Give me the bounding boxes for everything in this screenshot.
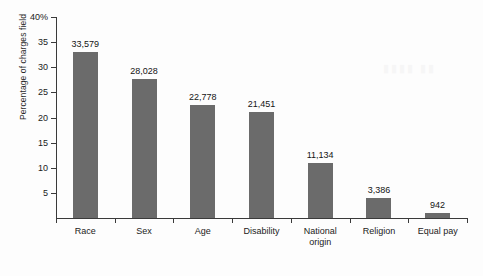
- bar: 33,579: [73, 52, 98, 218]
- x-axis-tick: [115, 218, 116, 223]
- bar: 942: [425, 213, 450, 218]
- plot-area: 510152025303540% 33,57928,02822,77821,45…: [56, 17, 467, 219]
- bar-group: 28,028: [115, 79, 174, 218]
- bar-chart: Percentage of charges field 510152025303…: [0, 0, 483, 276]
- x-axis-tick: [173, 218, 174, 223]
- y-axis-title: Percentage of charges field: [18, 0, 28, 152]
- bar-value-label: 28,028: [130, 66, 158, 76]
- y-axis-tick-label: 5: [43, 188, 48, 198]
- x-axis-tick: [350, 218, 351, 223]
- y-axis-tick-label: 30: [38, 62, 48, 72]
- x-axis-tick: [467, 218, 468, 223]
- bar-value-label: 3,386: [368, 185, 391, 195]
- y-axis-tick-label: 40%: [30, 12, 48, 22]
- bar: 22,778: [190, 105, 215, 218]
- x-axis-tick: [291, 218, 292, 223]
- bar-group: 11,134: [291, 163, 350, 218]
- bar-group: 21,451: [232, 112, 291, 218]
- x-axis-tick: [232, 218, 233, 223]
- x-axis-line: [56, 218, 467, 219]
- bar: 21,451: [249, 112, 274, 218]
- bar: 3,386: [366, 198, 391, 218]
- y-axis-tick: [51, 42, 56, 43]
- x-axis-category-label: Equal pay: [403, 226, 473, 237]
- bar-value-label: 11,134: [307, 150, 334, 160]
- y-axis-tick-label: 35: [38, 37, 48, 47]
- bar-value-label: 33,579: [72, 39, 100, 49]
- y-axis-tick: [51, 17, 56, 18]
- y-axis-tick-label: 15: [38, 138, 48, 148]
- bar-value-label: 942: [430, 200, 445, 210]
- bar: 28,028: [132, 79, 157, 218]
- y-axis-tick-label: 20: [38, 113, 48, 123]
- bar-group: 3,386: [350, 198, 409, 218]
- bar-value-label: 22,778: [189, 92, 217, 102]
- x-axis-tick: [56, 218, 57, 223]
- bar-value-label: 21,451: [248, 99, 276, 109]
- bar-group: 33,579: [56, 52, 115, 218]
- bar-group: 942: [408, 213, 467, 218]
- x-axis-tick: [408, 218, 409, 223]
- category-label-line: Equal pay: [403, 226, 473, 237]
- category-label-line: origin: [285, 237, 355, 248]
- bar-group: 22,778: [173, 105, 232, 218]
- y-axis-tick-label: 25: [38, 87, 48, 97]
- y-axis-tick-label: 10: [38, 163, 48, 173]
- bar: 11,134: [308, 163, 333, 218]
